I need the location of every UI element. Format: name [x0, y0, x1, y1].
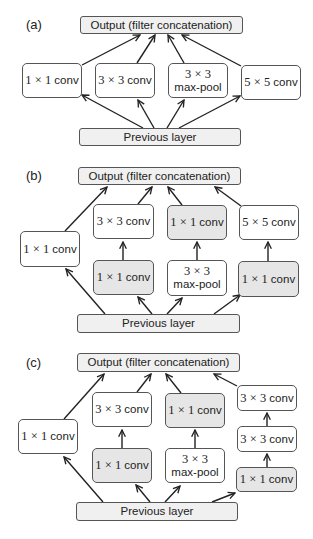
reduce-1x1-box: 1 × 1 conv [93, 260, 154, 295]
box-op: conv [50, 430, 74, 442]
box-dim: 3 × 3 [97, 214, 123, 228]
box-dim: 1 × 1 [170, 215, 196, 229]
box-op: conv [124, 459, 148, 471]
conv-1x1-box: 1 × 1 conv [20, 231, 80, 267]
box-dim: 3 × 3 [182, 453, 208, 466]
conv-3x3-mid-box: 3 × 3 conv [237, 426, 297, 452]
output-label: Output (filter concatenation) [89, 170, 231, 183]
reduce-1x1-box: 1 × 1 conv [92, 448, 152, 483]
previous-label: Previous layer [124, 131, 197, 144]
box-op: conv [269, 433, 293, 445]
previous-layer-box: Previous layer [76, 502, 238, 521]
conv-3x3-top-box: 3 × 3 conv [237, 385, 297, 411]
box-op: conv [271, 273, 295, 285]
conv-1x1-box: 1 × 1 conv [22, 63, 82, 98]
previous-layer-box: Previous layer [77, 314, 240, 333]
maxpool-box: 3 × 3max-pool [168, 63, 228, 98]
panel-label-b: (b) [26, 168, 42, 183]
previous-label: Previous layer [121, 505, 194, 518]
box-dim: 1 × 1 [25, 73, 51, 87]
box-op: max-pool [173, 278, 220, 291]
box-op: conv [197, 404, 221, 416]
box-op: max-pool [171, 466, 218, 479]
maxpool-box: 3 × 3max-pool [167, 260, 227, 296]
conv-1x1-box: 1 × 1 conv [18, 419, 78, 454]
box-op: conv [199, 216, 223, 228]
box-op: conv [273, 76, 297, 88]
box-op: conv [126, 215, 150, 227]
box-dim: 1 × 1 [21, 429, 47, 443]
box-dim: 3 × 3 [98, 73, 124, 87]
box-op: conv [269, 473, 293, 485]
pool-proj-1x1-box: 1 × 1 conv [165, 393, 225, 428]
box-dim: 1 × 1 [95, 458, 121, 472]
box-op: conv [126, 271, 150, 283]
box-dim: 3 × 3 [240, 391, 266, 405]
output-label: Output (filter concatenation) [91, 19, 233, 32]
box-op: conv [127, 74, 151, 86]
output-concat-box: Output (filter concatenation) [77, 353, 240, 372]
box-dim: 5 × 5 [242, 215, 268, 229]
box-op: max-pool [174, 81, 221, 94]
conv-3x3-box: 3 × 3 conv [92, 392, 152, 427]
box-op: conv [54, 74, 78, 86]
output-concat-box: Output (filter concatenation) [80, 16, 243, 34]
panel-label-c: (c) [26, 355, 41, 370]
box-dim: 1 × 1 [168, 403, 194, 417]
box-op: conv [124, 403, 148, 415]
box-dim: 1 × 1 [240, 472, 266, 486]
reduce-1x1-box: 1 × 1 conv [236, 467, 297, 492]
panel-label-a: (a) [26, 17, 42, 32]
maxpool-box: 3 × 3max-pool [165, 448, 225, 483]
box-dim: 5 × 5 [244, 75, 270, 89]
output-concat-box: Output (filter concatenation) [78, 167, 241, 185]
pool-proj-1x1-box: 1 × 1 conv [167, 205, 227, 240]
box-dim: 3 × 3 [240, 432, 266, 446]
box-dim: 3 × 3 [95, 402, 121, 416]
conv-3x3-box: 3 × 3 conv [95, 63, 155, 98]
box-op: conv [52, 243, 76, 255]
conv-3x3-box: 3 × 3 conv [93, 204, 154, 239]
previous-layer-box: Previous layer [79, 128, 241, 146]
box-dim: 1 × 1 [97, 270, 123, 284]
box-op: conv [269, 392, 293, 404]
conv-5x5-box: 5 × 5 conv [239, 205, 299, 240]
box-dim: 1 × 1 [242, 272, 268, 286]
box-op: conv [271, 216, 295, 228]
box-dim: 3 × 3 [185, 68, 211, 81]
box-dim: 1 × 1 [23, 242, 49, 256]
output-label: Output (filter concatenation) [88, 356, 230, 369]
conv-5x5-box: 5 × 5 conv [241, 65, 301, 100]
box-dim: 3 × 3 [184, 265, 210, 278]
reduce-1x1-box: 1 × 1 conv [238, 261, 299, 297]
previous-label: Previous layer [122, 317, 195, 330]
